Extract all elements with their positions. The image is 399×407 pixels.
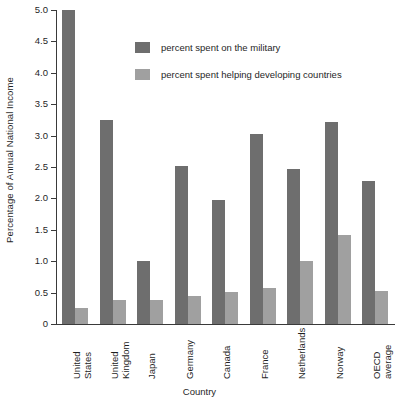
bar-group xyxy=(95,10,133,324)
y-axis-tick-mark xyxy=(51,41,56,42)
chart-legend: percent spent on the militarypercent spe… xyxy=(135,38,342,92)
bar-group xyxy=(57,10,95,324)
x-axis-tick-label: Japan xyxy=(147,353,158,379)
bar-military xyxy=(287,169,300,324)
x-axis-tick-label: France xyxy=(260,349,271,379)
bar-aid xyxy=(150,300,163,324)
y-axis-tick-label: 4.5 xyxy=(8,36,48,46)
y-axis-tick-label: 1.5 xyxy=(8,225,48,235)
bar-aid xyxy=(188,296,201,324)
y-axis-tick-label: 4.0 xyxy=(8,68,48,78)
y-axis-tick-label: 1.0 xyxy=(8,256,48,266)
y-axis-tick-label: 5.0 xyxy=(8,5,48,15)
y-axis-tick-mark xyxy=(51,198,56,199)
x-axis-tick-label: Germany xyxy=(185,340,196,379)
x-axis-tick-labels: UnitedStatesUnitedKingdomJapanGermanyCan… xyxy=(57,327,395,383)
bar-aid xyxy=(300,261,313,324)
bar-military xyxy=(325,122,338,324)
y-axis-tick-label: 0.5 xyxy=(8,288,48,298)
legend-swatch-icon xyxy=(135,42,150,53)
y-axis-tick-label: 3.5 xyxy=(8,99,48,109)
bar-aid xyxy=(375,291,388,324)
y-axis-tick-mark xyxy=(51,230,56,231)
bar-aid xyxy=(338,235,351,324)
x-axis-title: Country xyxy=(0,386,399,397)
bar-military xyxy=(137,261,150,324)
legend-label: percent spent on the military xyxy=(161,42,280,53)
y-axis-tick-mark xyxy=(51,324,56,325)
bar-group xyxy=(357,10,395,324)
y-axis-tick-label: 0 xyxy=(8,319,48,329)
bar-aid xyxy=(113,300,126,324)
bar-aid xyxy=(263,288,276,324)
bar-military xyxy=(250,134,263,324)
y-axis-tick-mark xyxy=(51,136,56,137)
y-axis-tick-mark xyxy=(51,293,56,294)
y-axis-tick-mark xyxy=(51,104,56,105)
legend-item: percent spent helping developing countri… xyxy=(135,65,342,83)
legend-swatch-icon xyxy=(135,69,150,80)
x-axis-tick-label: UnitedKingdom xyxy=(110,342,131,380)
legend-label: percent spent helping developing countri… xyxy=(161,69,342,80)
y-axis-tick-mark xyxy=(51,73,56,74)
bar-military xyxy=(175,166,188,324)
y-axis-tick-label: 3.0 xyxy=(8,131,48,141)
bar-military xyxy=(212,200,225,324)
bar-military xyxy=(100,120,113,324)
x-axis-line xyxy=(56,324,395,325)
x-axis-tick-label: Netherlands xyxy=(297,328,308,379)
bar-aid xyxy=(225,292,238,324)
y-axis-tick-mark xyxy=(51,10,56,11)
bar-military xyxy=(62,10,75,324)
y-axis-tick-mark xyxy=(51,167,56,168)
legend-item: percent spent on the military xyxy=(135,38,342,56)
y-axis-tick-label: 2.0 xyxy=(8,193,48,203)
bar-military xyxy=(362,181,375,324)
x-axis-tick-label: Norway xyxy=(335,347,346,379)
x-axis-tick-label: Canada xyxy=(222,346,233,379)
x-axis-tick-label: UnitedStates xyxy=(72,352,93,379)
bar-aid xyxy=(75,308,88,324)
bar-chart: Percentage of Annual National Income 00.… xyxy=(0,0,399,407)
y-axis-tick-label: 2.5 xyxy=(8,162,48,172)
x-axis-tick-label: OECDaverage xyxy=(372,345,393,379)
y-axis-tick-mark xyxy=(51,261,56,262)
